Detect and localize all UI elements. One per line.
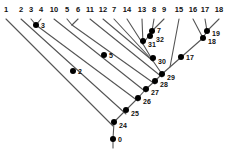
- node-label-3: 3: [41, 22, 45, 29]
- node-marker-18[interactable]: [200, 35, 206, 41]
- leaf-label-3: 3: [29, 6, 33, 14]
- leaf-6-branch: [72, 19, 78, 25]
- leaf-2-branch: [21, 19, 126, 114]
- leaf-label-2: 2: [19, 6, 23, 14]
- node-label-25: 25: [131, 110, 139, 117]
- node-label-28: 28: [160, 81, 168, 88]
- leaf-11-branch: [90, 19, 162, 77]
- node-label-17: 17: [186, 54, 194, 61]
- node-marker-3[interactable]: [33, 22, 39, 28]
- leaf-label-17: 17: [201, 6, 209, 14]
- leaf-label-16: 16: [189, 6, 197, 14]
- node-label-26: 26: [143, 98, 151, 105]
- leaf-label-6: 6: [76, 6, 80, 14]
- node-marker-19[interactable]: [204, 28, 210, 34]
- leaf-label-8: 8: [152, 6, 156, 14]
- leaf-1-branch: [6, 19, 113, 126]
- node-label-7: 7: [157, 27, 161, 34]
- cladogram-figure: 123410561112714138915161718 023571718192…: [0, 0, 229, 152]
- node-marker-31[interactable]: [140, 38, 146, 44]
- leaf-label-18: 18: [215, 6, 223, 14]
- node-marker-27[interactable]: [143, 86, 149, 92]
- leaf-label-15: 15: [175, 6, 183, 14]
- leaf-label-4: 4: [39, 6, 43, 14]
- leaf-label-10: 10: [50, 6, 58, 14]
- leaf-label-13: 13: [138, 6, 146, 14]
- node-marker-25[interactable]: [123, 107, 129, 113]
- leaf-5-branch: [67, 19, 72, 25]
- node-label-18: 18: [208, 38, 216, 45]
- leaf-label-12: 12: [99, 6, 107, 14]
- node-marker-0[interactable]: [110, 136, 116, 142]
- node-marker-24[interactable]: [111, 119, 117, 125]
- node-marker-28[interactable]: [152, 78, 158, 84]
- node-label-19: 19: [212, 30, 220, 37]
- node-label-0: 0: [118, 136, 122, 143]
- leaf-label-14: 14: [123, 6, 131, 14]
- node-marker-32[interactable]: [147, 33, 153, 39]
- node-marker-2[interactable]: [70, 68, 76, 74]
- node-label-24: 24: [119, 122, 127, 129]
- node-label-29: 29: [167, 74, 175, 81]
- leaf-label-5: 5: [65, 6, 69, 14]
- node-marker-17[interactable]: [178, 54, 184, 60]
- node-label-27: 27: [151, 89, 159, 96]
- node-marker-29[interactable]: [159, 71, 165, 77]
- node-label-5: 5: [109, 52, 113, 59]
- leaf-label-9: 9: [162, 6, 166, 14]
- node-marker-5[interactable]: [101, 52, 107, 58]
- leaf-label-7: 7: [112, 6, 116, 14]
- node-3-branch: [36, 25, 138, 101]
- node-label-32: 32: [156, 36, 164, 43]
- leaf-label-11: 11: [86, 6, 94, 14]
- node-label-31: 31: [148, 41, 156, 48]
- node-marker-26[interactable]: [135, 95, 141, 101]
- branch-layer: [6, 19, 219, 148]
- node-label-30: 30: [158, 58, 166, 65]
- cladogram-canvas: [0, 0, 229, 152]
- node-label-2: 2: [78, 68, 82, 75]
- node-marker-30[interactable]: [150, 55, 156, 61]
- leaf-16-branch: [193, 19, 203, 38]
- leaf-label-1: 1: [4, 6, 8, 14]
